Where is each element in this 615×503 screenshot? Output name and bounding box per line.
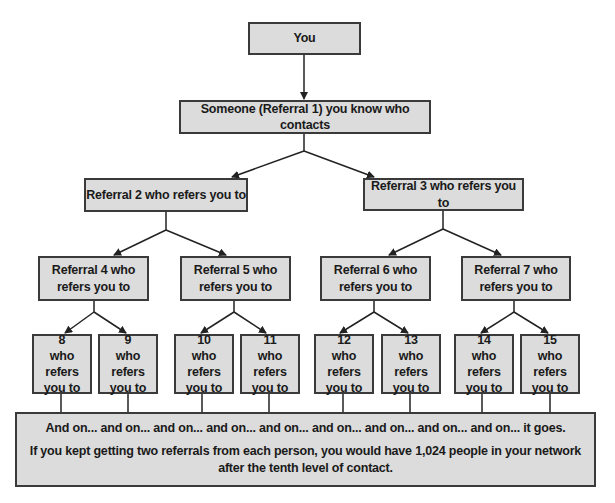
- referral-tree-diagram: You Someone (Referral 1) you know who co…: [0, 0, 615, 503]
- node-label-line: refers you to: [199, 279, 272, 295]
- node-referral-11: 11 who refers you to: [240, 334, 300, 394]
- node-referral-13: 13 who refers you to: [381, 334, 441, 394]
- node-number: 10: [197, 332, 211, 348]
- node-referral-12: 12 who refers you to: [314, 334, 374, 394]
- node-label-line: who refers: [34, 348, 90, 381]
- node-referral-6: Referral 6 who refers you to: [320, 256, 431, 301]
- node-label: Someone (Referral 1) you know who contac…: [181, 101, 429, 134]
- node-label-line: Referral 6 who: [334, 262, 417, 278]
- node-label-line: who refers: [316, 348, 372, 381]
- node-number: 13: [404, 332, 418, 348]
- node-referral-8: 8 who refers you to: [32, 334, 92, 394]
- node-referral-14: 14 who refers you to: [454, 334, 514, 394]
- node-label-line: Referral 5 who: [194, 262, 277, 278]
- node-label-line: who refers: [456, 348, 512, 381]
- node-referral-1: Someone (Referral 1) you know who contac…: [179, 100, 431, 134]
- node-label-line: you to: [326, 380, 362, 396]
- node-label: Referral 3 who refers you to: [365, 178, 522, 211]
- node-referral-15: 15 who refers you to: [520, 334, 580, 394]
- node-label-line: who refers: [176, 348, 232, 381]
- node-label-line: who refers: [522, 348, 578, 381]
- node-number: 15: [543, 332, 557, 348]
- node-label-line: Referral 7 who: [474, 262, 557, 278]
- node-label-line: you to: [186, 380, 222, 396]
- node-referral-2: Referral 2 who refers you to: [84, 178, 248, 212]
- node-number: 9: [125, 332, 132, 348]
- node-label-line: you to: [466, 380, 502, 396]
- node-you: You: [248, 22, 361, 55]
- node-label: Referral 2 who refers you to: [86, 187, 246, 203]
- node-referral-5: Referral 5 who refers you to: [180, 256, 291, 301]
- node-label-line: Referral 4 who: [52, 262, 135, 278]
- node-label-line: who refers: [242, 348, 298, 381]
- node-number: 14: [477, 332, 491, 348]
- summary-line-and-on: And on... and on... and on... and on... …: [17, 421, 594, 435]
- summary-box: And on... and on... and on... and on... …: [15, 412, 596, 487]
- node-label-line: you to: [532, 380, 568, 396]
- node-referral-7: Referral 7 who refers you to: [461, 256, 571, 301]
- node-label-line: you to: [44, 380, 80, 396]
- summary-line-explanation: If you kept getting two referrals from e…: [17, 443, 594, 477]
- node-label-line: you to: [252, 380, 288, 396]
- node-number: 8: [59, 332, 66, 348]
- node-label-line: who refers: [100, 348, 156, 381]
- node-label-line: refers you to: [479, 279, 552, 295]
- node-number: 12: [337, 332, 351, 348]
- node-label: You: [293, 30, 315, 46]
- node-label-line: refers you to: [57, 279, 130, 295]
- node-number: 11: [264, 332, 277, 348]
- node-referral-4: Referral 4 who refers you to: [38, 256, 149, 301]
- node-label-line: refers you to: [339, 279, 412, 295]
- node-label-line: you to: [110, 380, 146, 396]
- node-referral-10: 10 who refers you to: [174, 334, 234, 394]
- node-referral-3: Referral 3 who refers you to: [363, 178, 524, 211]
- node-label-line: who refers: [383, 348, 439, 381]
- node-referral-9: 9 who refers you to: [98, 334, 158, 394]
- node-label-line: you to: [393, 380, 429, 396]
